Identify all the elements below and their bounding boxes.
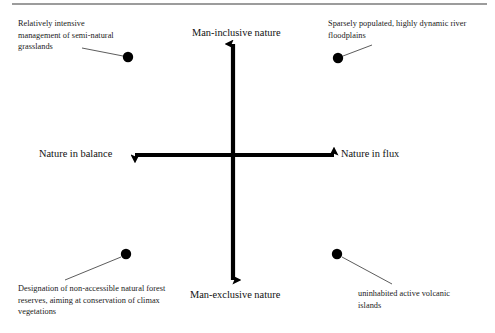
axis-label-man-inclusive-nature: Man-inclusive nature — [192, 27, 281, 39]
callout-marker-dot — [332, 249, 342, 259]
callout-leader-line — [65, 257, 121, 280]
callout-leader-line — [343, 45, 372, 56]
axis-label-nature-in-flux: Nature in flux — [341, 148, 399, 160]
callout-marker-dot — [121, 249, 131, 259]
callout-label-lower-left: Designation of non-accessible natural fo… — [18, 283, 213, 318]
axis-label-nature-in-balance: Nature in balance — [39, 148, 112, 160]
callout-leader-line — [342, 257, 392, 284]
callout-label-upper-right: Sparsely populated, highly dynamic river… — [328, 18, 493, 41]
callout-marker-dot — [123, 52, 133, 62]
quadrant-diagram-figure: Man-inclusive nature Man-exclusive natur… — [0, 0, 495, 333]
callout-label-lower-right: uninhabited active volcanic islands — [358, 288, 488, 311]
callout-label-upper-left: Relatively intensive management of semi-… — [18, 18, 168, 53]
callout-marker-dot — [333, 53, 343, 63]
